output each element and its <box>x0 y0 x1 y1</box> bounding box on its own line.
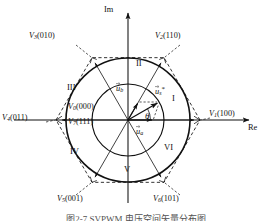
construction-line-ua-to-us <box>154 104 159 119</box>
vector-state-v2: (110) <box>163 31 180 40</box>
vector-label-v4: V4(011) <box>2 114 27 122</box>
component-vector-symbol-ua: u <box>136 127 140 136</box>
vector-label-v6: V6(101) <box>153 195 179 203</box>
sector-label-i: I <box>172 94 175 103</box>
sector-label-v: V <box>124 165 130 174</box>
vector-state-v1: (100) <box>217 109 235 118</box>
sector-line-v6 <box>128 120 161 177</box>
reference-vector-superscript-us: * <box>162 85 166 93</box>
reference-vector-label-us: us* <box>155 86 165 97</box>
vector-state-v5: (001) <box>65 194 83 203</box>
component-vector-symbol-ub: u <box>116 84 120 93</box>
vector-label-v0: V0(000) <box>68 103 94 111</box>
sector-label-iii: III <box>67 83 76 92</box>
vector-state-v3: (010) <box>37 31 55 40</box>
leader-v2 <box>165 45 180 57</box>
sector-label-ii: II <box>136 59 142 68</box>
vector-state-v7: (111) <box>76 117 93 126</box>
vector-label-v7: V7(111) <box>68 118 93 126</box>
leader-v3 <box>76 45 91 57</box>
sector-label-iv: IV <box>70 147 79 156</box>
vector-label-v2: V2(110) <box>155 32 180 40</box>
sector-label-vi: VI <box>164 143 173 152</box>
component-vector-label-ub: ub <box>116 85 123 93</box>
vector-state-v4: (011) <box>10 113 27 122</box>
vector-label-v1: V1(100) <box>209 110 235 118</box>
imaginary-axis-label: Im <box>104 6 113 14</box>
vector-label-v5: V5(001) <box>57 195 83 203</box>
reference-vector-symbol-us: u <box>155 87 159 96</box>
component-vector-label-ua: ua <box>136 128 143 136</box>
vector-state-v6: (101) <box>161 194 179 203</box>
real-axis-label: Re <box>248 124 257 132</box>
figure-root: Im Re V3(010) V2(110) V4(011) V1(100) V5… <box>0 0 272 221</box>
theta-angle-label: θ <box>145 112 149 121</box>
component-vector-subscript-ub: b <box>120 87 123 93</box>
figure-caption: 图2-7 SVPWM 电压空间矢量分布图 <box>0 214 272 221</box>
vector-label-v3: V3(010) <box>29 32 55 40</box>
component-vector-subscript-ua: a <box>140 130 143 136</box>
vector-state-v0: (000) <box>76 102 94 111</box>
